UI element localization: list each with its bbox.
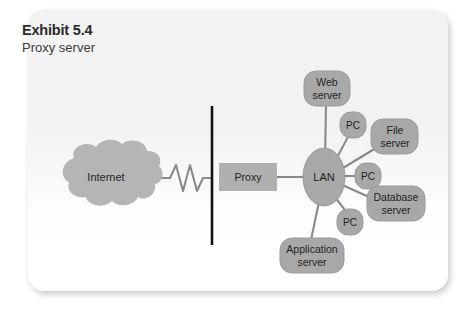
file-server-node: File server [371,119,418,154]
lan-node: LAN [303,148,345,206]
proxy-label: Proxy [235,171,263,183]
connector-internet-to-firewall [155,165,212,191]
internet-node: Internet [63,140,163,206]
proxy-node: Proxy [219,163,277,191]
internet-label: Internet [87,171,124,183]
pc-1-label: PC [346,120,360,131]
lan-label: LAN [313,171,334,183]
application-server-label-line1: Application [286,243,338,255]
application-server-node: Application server [280,238,344,273]
database-server-node: Database server [367,186,425,221]
pc-3-node: PC [337,209,363,235]
pc-2-node: PC [355,163,381,189]
file-server-label-line2: server [380,137,410,149]
exhibit-figure: Exhibit 5.4 Proxy server Internet [0,0,469,311]
exhibit-subtitle: Proxy server [22,40,95,57]
pc-1-node: PC [340,112,366,138]
database-server-label-line1: Database [374,191,419,203]
web-server-node: Web server [304,71,350,106]
pc-2-label: PC [361,171,375,182]
pc-3-label: PC [343,217,357,228]
title-block: Exhibit 5.4 Proxy server [22,22,95,57]
file-server-label-line1: File [387,124,404,136]
exhibit-title: Exhibit 5.4 [22,22,95,39]
web-server-label-line1: Web [316,76,338,88]
web-server-label-line2: server [312,89,342,101]
database-server-label-line2: server [381,204,411,216]
application-server-label-line2: server [297,256,327,268]
